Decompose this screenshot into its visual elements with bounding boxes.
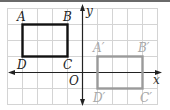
label-c-prime: C′ [140,91,152,105]
label-y: y [85,4,93,18]
label-b-prime: B′ [137,41,150,55]
axes [8,4,162,106]
label-d: D [16,58,27,72]
label-b: B [62,10,72,24]
y-axis-arrow-up-icon [80,4,85,11]
label-d-prime: D′ [92,91,106,105]
label-x: x [153,73,160,87]
label-c: C [63,58,72,72]
label-a: A [16,10,26,24]
x-axis-arrow-left-icon [8,70,15,75]
label-origin: O [69,74,79,88]
label-a-prime: A′ [92,41,105,55]
coordinate-plane: A B C D y O x A′ B′ C′ D′ [0,0,170,110]
